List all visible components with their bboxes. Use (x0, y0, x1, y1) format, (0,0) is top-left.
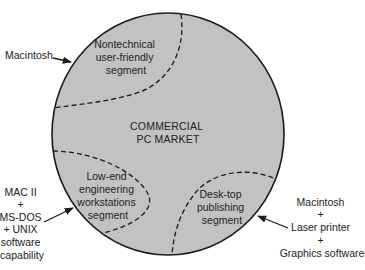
desktop-segment-label: Desk-top publishing segment (197, 188, 247, 226)
macintosh-arrow (53, 58, 71, 62)
product-label-line: Graphics software (280, 247, 365, 259)
market-segmentation-diagram: COMMERCIAL PC MARKET Nontechnical user-f… (0, 0, 365, 270)
segment-label-line: segment (88, 209, 128, 221)
product-label-line: + (17, 198, 23, 210)
segment-label-line: user-friendly (96, 51, 155, 63)
mac-ii-product-label: MAC II + MS-DOS + UNIX software capabili… (0, 186, 45, 261)
segment-label-line: segment (202, 214, 242, 226)
segment-label-line: Desk-top (200, 188, 242, 200)
macintosh-product-label: Macintosh (5, 49, 53, 61)
mac-laser-product-label: Macintosh + Laser printer + Graphics sof… (280, 196, 365, 259)
product-label-line: + (317, 208, 323, 220)
product-label-line: software (1, 236, 41, 248)
product-label-line: MS-DOS (0, 211, 42, 223)
segment-label-line: publishing (197, 201, 244, 213)
segment-label-line: engineering (79, 183, 134, 195)
product-label-line: Macintosh (5, 49, 53, 61)
product-label-line: + (317, 234, 323, 246)
product-label-line: MAC II (4, 186, 36, 198)
segment-label-line: Low-end (86, 170, 126, 182)
center-label-line: COMMERCIAL (130, 120, 203, 132)
center-label: COMMERCIAL PC MARKET (130, 120, 206, 145)
segment-label-line: workstations (76, 196, 135, 208)
product-label-line: capability (0, 249, 45, 261)
center-label-line: PC MARKET (136, 133, 199, 145)
product-label-line: Macintosh (297, 196, 345, 208)
mac-laser-arrow (258, 216, 288, 228)
product-label-line: + UNIX (3, 223, 37, 235)
segment-label-line: Nontechnical (94, 38, 155, 50)
mac-ii-arrow (44, 208, 73, 222)
product-label-line: Laser printer (291, 221, 350, 233)
segment-label-line: segment (106, 64, 146, 76)
